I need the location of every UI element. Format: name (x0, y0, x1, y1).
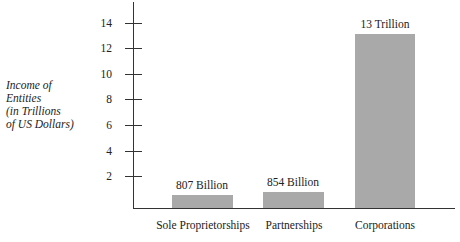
y-tick-label: 10 (96, 68, 112, 80)
y-tick-label: 4 (96, 145, 112, 157)
y-tick-label: 14 (96, 17, 112, 29)
y-axis-label: Income of Entities (in Trillions of US D… (6, 79, 86, 131)
bar-value-label: 13 Trillion (345, 18, 425, 30)
y-tick-label: 6 (96, 119, 112, 131)
bar-value-label: 854 Billion (253, 176, 333, 188)
y-tick (125, 176, 142, 177)
bar-value-label: 807 Billion (162, 179, 242, 191)
x-axis-line (133, 208, 455, 209)
bar-corporations (355, 34, 415, 208)
y-axis-label-line: (in Trillions (6, 105, 86, 118)
y-axis-line (133, 2, 134, 208)
y-axis-label-line: Entities (6, 92, 86, 105)
y-tick (125, 151, 142, 152)
bar-partnerships (263, 192, 324, 208)
y-tick (125, 74, 142, 75)
y-tick (125, 23, 142, 24)
y-axis-label-line: of US Dollars) (6, 118, 86, 131)
x-category-label: Corporations (345, 219, 425, 231)
y-tick-label: 8 (96, 93, 112, 105)
y-tick-label: 12 (96, 42, 112, 54)
y-tick (125, 125, 142, 126)
y-tick (125, 48, 142, 49)
y-tick (125, 99, 142, 100)
bar-sole-proprietorships (172, 195, 233, 208)
y-axis-label-line: Income of (6, 79, 86, 92)
x-category-label: Sole Proprietorships (148, 219, 258, 231)
y-tick-label: 2 (96, 170, 112, 182)
x-category-label: Partnerships (258, 219, 330, 231)
